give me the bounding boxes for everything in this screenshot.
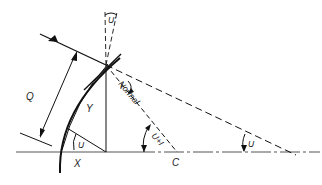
u-vertex-arc (73, 134, 76, 150)
normal-line (106, 65, 177, 152)
y-label: Y (86, 103, 94, 114)
u-far-label: U (248, 139, 255, 149)
q-label: Q (26, 91, 34, 102)
u-far-arrow-icon (241, 145, 247, 152)
refracting-surface (60, 58, 120, 173)
refraction-diagram: U' Q U Y X Normal I U+I C U (0, 0, 322, 185)
q-arrow-bottom-icon (40, 128, 45, 138)
extended-ray (106, 65, 296, 155)
u-plus-i-arrow-bottom-icon (141, 145, 147, 152)
u-plus-i-label: U+I (149, 131, 166, 148)
u-plus-i-arrow-top-icon (145, 124, 151, 131)
u-prime-line-left (105, 12, 106, 65)
u-vertex-label: U (78, 140, 85, 150)
u-prime-label: U' (108, 15, 116, 25)
c-label: C (172, 157, 180, 168)
surface-tangent (84, 54, 121, 90)
q-arrow-top-icon (71, 51, 77, 61)
x-label: X (73, 158, 81, 169)
u-chord (67, 128, 106, 152)
